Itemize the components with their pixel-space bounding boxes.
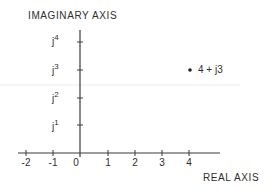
x-tick-label-4: 4 (186, 157, 192, 168)
complex-plane-graphic (0, 0, 277, 189)
y-tick-label-j3: j3 (52, 63, 59, 76)
x-tick-label-minus1: -1 (49, 157, 58, 168)
point-label: 4 + j3 (198, 64, 223, 75)
y-tick-label-j4: j4 (52, 34, 59, 47)
imaginary-axis-label: IMAGINARY AXIS (28, 10, 117, 21)
x-tick-label-1: 1 (105, 157, 111, 168)
x-tick-label-0: 0 (73, 157, 79, 168)
y-tick-label-j2: j2 (52, 91, 59, 104)
x-tick-label-minus2: -2 (22, 157, 31, 168)
point-4-plus-j3-dot (188, 68, 192, 72)
x-tick-label-3: 3 (159, 157, 165, 168)
x-tick-label-2: 2 (132, 157, 138, 168)
y-tick-label-j1: j1 (52, 119, 59, 132)
real-axis-label: REAL AXIS (203, 172, 259, 183)
